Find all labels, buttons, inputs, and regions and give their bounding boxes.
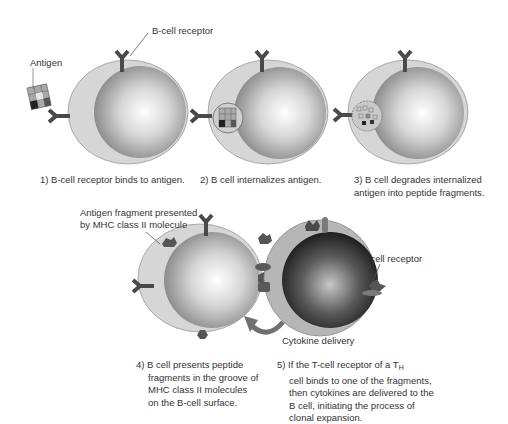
label-cytokine-delivery: Cytokine delivery — [282, 335, 354, 347]
label-antigen-fragment: Antigen fragment presented by MHC class … — [80, 207, 197, 231]
caption-step-5: 5) If the T-cell receptor of a TH cell b… — [277, 359, 434, 424]
antigen-icon — [27, 84, 51, 110]
caption-step-2: 2) B cell internalizes antigen. — [200, 174, 321, 187]
b-cell-step1 — [27, 33, 188, 164]
label-t-cell-receptor: T-cell receptor — [362, 253, 422, 265]
b-cell-step2 — [191, 51, 328, 164]
caption-step-4: 4) B cell presents peptide fragments in … — [136, 359, 258, 409]
label-antigen: Antigen — [30, 57, 62, 69]
t-cell — [255, 217, 386, 336]
caption-step-3: 3) B cell degrades internalized antigen … — [354, 174, 484, 199]
cytokine-arrow-icon — [244, 316, 283, 332]
b-cell-step3 — [334, 51, 468, 164]
label-b-cell-receptor: B-cell receptor — [152, 25, 213, 37]
caption-step-1: 1) B-cell receptor binds to antigen. — [40, 174, 185, 187]
